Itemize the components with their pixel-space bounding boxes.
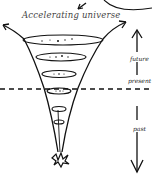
past-label: past	[133, 125, 146, 132]
expansion-arrows	[3, 21, 126, 39]
time-arrow-down	[131, 106, 143, 172]
diagram-drawing	[0, 0, 152, 183]
galaxy-dots	[41, 38, 72, 92]
accelerating-universe-diagram: Accelerating universe future present pas…	[0, 0, 152, 183]
future-label: future	[130, 55, 149, 62]
big-bang-burst	[52, 153, 69, 167]
partial-circle-arrow	[78, 0, 152, 10]
cross-section-rings	[23, 35, 103, 124]
present-label: present	[128, 77, 151, 84]
time-arrow-up	[132, 30, 142, 75]
diagram-title: Accelerating universe	[22, 10, 120, 20]
funnel-cone	[24, 39, 103, 152]
